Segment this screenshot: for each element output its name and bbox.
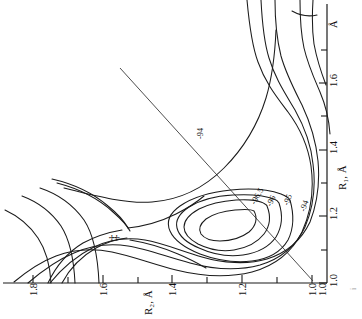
transition-state-marker: ‡ — [106, 234, 121, 241]
tick-label-r1-1.4: 1.4 — [328, 140, 339, 154]
contour-plot-svg: -94 -96.5 -96 -95 -94 ‡ 1.0 1.2 1.4 1.6 … — [0, 0, 362, 319]
axis-r1-title-text: R₁, Å — [336, 165, 348, 190]
origin-corner-label: 1.0 — [317, 283, 328, 296]
axis-r1-unit-label: Å — [328, 20, 339, 28]
tick-label-r2-1.4: 1.4 — [167, 282, 178, 296]
figure-contour-plot: -94 -96.5 -96 -95 -94 ‡ 1.0 1.2 1.4 1.6 … — [0, 0, 362, 319]
axis-r2-title: R₂, Å — [142, 290, 154, 315]
tick-label-r2-1.6: 1.6 — [98, 283, 109, 296]
tick-label-r1-1.0: 1.0 — [328, 274, 339, 287]
axis-r1-title: R₁, Å — [336, 165, 348, 190]
tick-label-r1-1.2: 1.2 — [328, 207, 339, 220]
axis-r2-title-text: R₂, Å — [142, 290, 154, 315]
tick-label-r2-1.2: 1.2 — [237, 283, 248, 296]
tick-label-r2-1.8: 1.8 — [28, 283, 39, 296]
contour-label--94-upper: -94 — [196, 127, 205, 139]
tick-label-r1-1.6: 1.6 — [328, 74, 339, 87]
